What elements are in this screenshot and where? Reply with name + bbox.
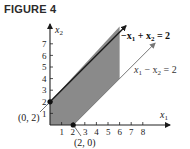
x-tick-label: 8 xyxy=(141,127,146,137)
y-tick-label: 4 xyxy=(42,74,47,84)
y-tick-label: 3 xyxy=(42,85,47,95)
x-tick-label: 2 xyxy=(71,127,76,137)
x-tick-label: 3 xyxy=(83,127,88,137)
x-tick-label: 1 xyxy=(60,127,65,137)
y-tick-label: 7 xyxy=(42,39,47,49)
y-tick-label: 1 xyxy=(42,109,47,119)
y-tick-label: 5 xyxy=(42,62,47,72)
x-tick-label: 5 xyxy=(106,127,111,137)
leader-line xyxy=(74,126,81,136)
x-tick-label: 4 xyxy=(94,127,99,137)
upper-line-equation: −x1 + x2 = 2 xyxy=(121,30,170,43)
y-tick-label: 6 xyxy=(42,51,47,61)
x-tick-label: 6 xyxy=(118,127,123,137)
feasible-region-diagram: 1 2 3 4 5 6 7 8 1 2 3 4 5 6 7 x2 x1 −x1 … xyxy=(0,0,190,149)
shaded-region xyxy=(50,26,120,125)
y-tick-label: 2 xyxy=(42,97,47,107)
point-label-2-0: (2, 0) xyxy=(74,137,96,149)
x-axis-label: x1 xyxy=(159,109,168,122)
lower-line-equation: x1 − x2 = 2 xyxy=(133,64,177,77)
point-2-0 xyxy=(71,122,76,127)
x-tick-label: 7 xyxy=(129,127,134,137)
point-label-0-2: (0, 2) xyxy=(18,112,40,124)
y-axis-label: x2 xyxy=(54,24,63,37)
